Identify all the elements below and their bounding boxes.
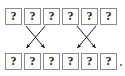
- top-row-cell-2: ?: [24, 8, 41, 25]
- permutation-diagram: ? ? ? ? ? ? ? ? ? ? ? ?: [0, 0, 125, 76]
- top-row-cell-5: ?: [81, 8, 98, 25]
- bottom-row-cell-5: ?: [81, 53, 98, 70]
- bottom-row-cell-6: ?: [100, 53, 117, 70]
- cell-glyph: ?: [106, 55, 112, 67]
- cell-glyph: ?: [30, 10, 36, 22]
- cell-glyph: ?: [68, 10, 74, 22]
- top-row-cell-4: ?: [62, 8, 79, 25]
- cell-glyph: ?: [106, 10, 112, 22]
- cell-glyph: ?: [11, 10, 17, 22]
- top-row-cell-1: ?: [5, 8, 22, 25]
- arrow-6-to-4b-icon: [78, 26, 97, 48]
- arrow-2-to-4-icon: [26, 26, 45, 48]
- arrow-4-to-2-icon: [27, 26, 46, 48]
- arrow-4b-to-6-icon: [77, 26, 96, 48]
- cell-glyph: ?: [49, 55, 55, 67]
- bottom-row-cell-4: ?: [62, 53, 79, 70]
- cell-glyph: ?: [11, 55, 17, 67]
- top-row: ? ? ? ? ? ?: [0, 7, 125, 25]
- bottom-row-cell-3: ?: [43, 53, 60, 70]
- bottom-row-cell-2: ?: [24, 53, 41, 70]
- top-row-cell-3: ?: [43, 8, 60, 25]
- cell-glyph: ?: [68, 55, 74, 67]
- cell-glyph: ?: [87, 10, 93, 22]
- top-row-cell-6: ?: [100, 8, 117, 25]
- bottom-row-cell-1: ?: [5, 53, 22, 70]
- cell-glyph: ?: [87, 55, 93, 67]
- cell-glyph: ?: [49, 10, 55, 22]
- trailing-mark: [120, 64, 122, 66]
- cell-glyph: ?: [30, 55, 36, 67]
- bottom-row: ? ? ? ? ? ?: [0, 52, 125, 70]
